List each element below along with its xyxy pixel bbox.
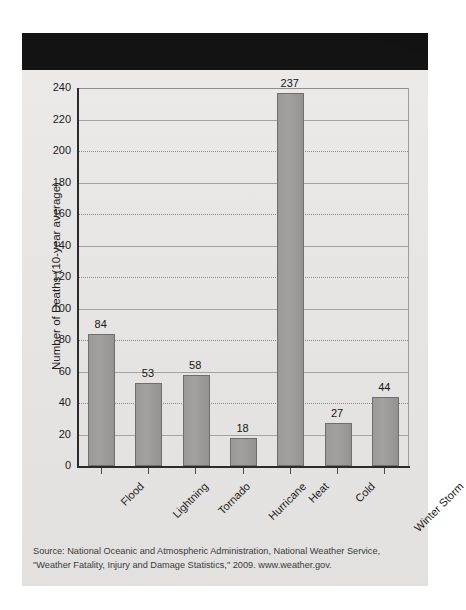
title-banner <box>22 33 428 70</box>
bar-value-label: 18 <box>220 422 266 434</box>
bar-value-label: 53 <box>125 367 171 379</box>
bar <box>230 438 257 466</box>
source-line-2: "Weather Fatality, Injury and Damage Sta… <box>33 559 413 573</box>
bar-value-label: 84 <box>78 318 124 330</box>
y-tick-label: 60 <box>27 365 71 377</box>
chart-area: Number of Deaths (10-year average) 02040… <box>22 70 428 540</box>
x-tickmark <box>384 468 385 474</box>
x-tickmark <box>337 468 338 474</box>
x-category-label: Lightning <box>170 480 210 520</box>
source-line-1: Source: National Oceanic and Atmospheric… <box>33 545 413 559</box>
x-tickmark <box>243 468 244 474</box>
x-axis-line <box>77 466 410 468</box>
page-title: WEATHER FATALITIES <box>16 10 182 25</box>
bar <box>183 375 210 466</box>
x-category-label: Heat <box>306 480 331 505</box>
bar <box>325 423 352 466</box>
y-tick-label: 40 <box>27 396 71 408</box>
bar <box>88 334 115 466</box>
x-tickmark <box>148 468 149 474</box>
y-tick-label: 0 <box>27 459 71 471</box>
x-category-label: Winter Storm <box>412 480 466 534</box>
bar-value-label: 44 <box>361 381 407 393</box>
bar-value-label: 27 <box>314 407 360 419</box>
y-tick-label: 120 <box>27 270 71 282</box>
banner-shape <box>22 33 428 70</box>
x-category-label: Cold <box>353 480 377 504</box>
y-tick-label: 100 <box>27 302 71 314</box>
y-tick-label: 140 <box>27 239 71 251</box>
x-tickmark <box>101 468 102 474</box>
x-category-label: Tornado <box>216 480 253 517</box>
bar <box>135 383 162 466</box>
x-tickmark <box>195 468 196 474</box>
source-note: Source: National Oceanic and Atmospheric… <box>33 545 413 572</box>
y-tick-label: 80 <box>27 333 71 345</box>
x-category-label: Flood <box>118 480 146 508</box>
x-tickmark <box>290 468 291 474</box>
bar <box>372 397 399 466</box>
x-category-label: Hurricane <box>265 480 307 522</box>
bar-value-label: 58 <box>172 359 218 371</box>
y-tick-label: 20 <box>27 428 71 440</box>
y-tick-label: 180 <box>27 176 71 188</box>
x-axis-category-labels: FloodLightningTornadoHurricaneHeatColdWi… <box>22 70 428 170</box>
y-tick-label: 160 <box>27 207 71 219</box>
